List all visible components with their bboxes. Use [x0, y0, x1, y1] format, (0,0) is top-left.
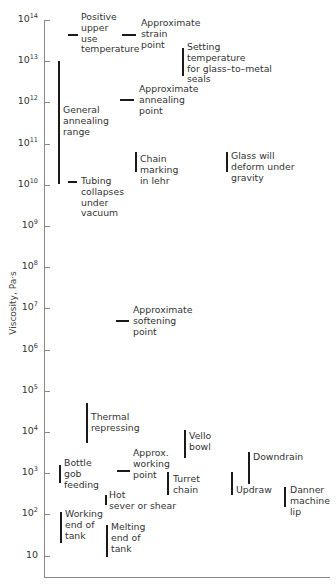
- label-melting-end: Meltingend oftank: [111, 522, 145, 554]
- marker-tubing-collapses: [68, 181, 77, 183]
- label-line: bowl: [189, 442, 211, 453]
- label-line: seals: [187, 74, 272, 85]
- label-line: lip: [290, 507, 330, 518]
- range-hot-sever: [105, 495, 107, 505]
- marker-annealing-point: [120, 99, 134, 101]
- label-setting-temp: Settingtemperaturefor glass–to–metalseal…: [187, 42, 272, 85]
- y-axis-line: [44, 20, 45, 577]
- y-tick: [44, 226, 50, 227]
- y-tick-label: 1014: [6, 13, 38, 24]
- range-chain-marking: [135, 152, 137, 172]
- label-line: point: [139, 106, 198, 117]
- marker-working-point: [117, 470, 130, 472]
- label-positive-upper: Positiveupperusetemperature: [81, 12, 139, 55]
- label-thermal: Thermalrepressing: [91, 412, 140, 434]
- y-tick: [44, 432, 50, 433]
- y-tick: [44, 514, 50, 515]
- label-vello: Vellobowl: [189, 431, 211, 453]
- y-tick-label: 104: [6, 425, 38, 436]
- range-vello: [184, 430, 186, 458]
- range-thermal: [86, 403, 88, 443]
- y-tick-label: 108: [6, 260, 38, 271]
- label-line: upper: [81, 23, 139, 34]
- y-tick-label: 106: [6, 343, 38, 354]
- marker-softening-point: [116, 320, 129, 322]
- marker-positive-upper: [68, 34, 78, 36]
- range-glass-deform: [226, 152, 228, 172]
- label-working-end: Workingend oftank: [65, 509, 103, 541]
- label-bottle: Bottlegobfeeding: [64, 458, 99, 490]
- label-updraw: Updraw: [236, 485, 272, 496]
- y-tick: [44, 556, 50, 557]
- y-tick: [44, 350, 50, 351]
- label-line: tank: [111, 544, 145, 555]
- label-line: temperature: [187, 53, 272, 64]
- range-setting: [182, 48, 184, 76]
- range-annealing: [58, 61, 60, 184]
- y-tick: [44, 308, 50, 309]
- range-downdrain: [248, 452, 250, 484]
- y-tick: [44, 102, 50, 103]
- label-hot-sever: Hotsever or shear: [109, 490, 176, 512]
- label-line: working: [133, 459, 170, 470]
- y-tick: [44, 144, 50, 145]
- range-melting-end: [106, 525, 108, 557]
- label-line: softening: [133, 316, 192, 327]
- range-working-end: [60, 512, 62, 543]
- label-line: end of: [111, 533, 145, 544]
- label-line: point: [133, 327, 192, 338]
- label-line: feeding: [64, 480, 99, 491]
- label-turret: Turretchain: [173, 474, 200, 496]
- label-line: chain: [173, 485, 200, 496]
- y-tick-label: 103: [6, 466, 38, 477]
- label-line: point: [133, 470, 170, 481]
- label-line: collapses: [81, 187, 124, 198]
- label-line: gravity: [231, 173, 294, 184]
- range-bottle: [59, 465, 61, 483]
- y-tick-label: 1011: [6, 137, 38, 148]
- label-annealing-point: Approximateannealingpoint: [139, 84, 198, 116]
- label-line: range: [63, 127, 109, 138]
- label-downdrain: Downdrain: [253, 452, 303, 463]
- label-line: annealing: [139, 95, 198, 106]
- label-line: repressing: [91, 423, 140, 434]
- label-line: in lehr: [140, 176, 178, 187]
- y-tick-label: 105: [6, 384, 38, 395]
- x-axis-line: [44, 577, 330, 578]
- label-line: deform under: [231, 162, 294, 173]
- y-tick-label: 1010: [6, 178, 38, 189]
- label-line: annealing: [63, 116, 109, 127]
- label-line: Updraw: [236, 485, 272, 496]
- label-chain-marking: Chainmarkingin lehr: [140, 154, 178, 186]
- y-tick-label: 107: [6, 301, 38, 312]
- y-tick: [44, 61, 50, 62]
- label-working-point: Approx.workingpoint: [133, 448, 170, 480]
- label-softening: Approximatesofteningpoint: [133, 305, 192, 337]
- label-danner: Dannermachinelip: [290, 485, 330, 517]
- y-tick: [44, 391, 50, 392]
- y-tick-label: 109: [6, 219, 38, 230]
- label-line: end of: [65, 520, 103, 531]
- label-line: marking: [140, 165, 178, 176]
- label-line: strain: [141, 29, 200, 40]
- label-line: vacuum: [81, 208, 124, 219]
- range-updraw: [231, 472, 233, 495]
- y-tick: [44, 267, 50, 268]
- viscosity-chart: Viscosity, Pa·s 101410131012101110101091…: [0, 0, 336, 586]
- label-line: gob: [64, 469, 99, 480]
- label-line: tank: [65, 531, 103, 542]
- label-glass-deform: Glass willdeform undergravity: [231, 151, 294, 183]
- label-line: sever or shear: [109, 501, 176, 512]
- y-tick: [44, 473, 50, 474]
- label-tubing: Tubingcollapsesundervacuum: [81, 176, 124, 219]
- y-tick: [44, 185, 50, 186]
- label-annealing-range: Generalannealingrange: [63, 105, 109, 137]
- range-danner: [284, 487, 286, 507]
- y-tick-label: 1013: [6, 54, 38, 65]
- label-line: temperature: [81, 44, 139, 55]
- label-line: Downdrain: [253, 452, 303, 463]
- y-tick-label: 102: [6, 507, 38, 518]
- y-tick-label: 1012: [6, 95, 38, 106]
- label-line: machine: [290, 496, 330, 507]
- y-tick: [44, 20, 50, 21]
